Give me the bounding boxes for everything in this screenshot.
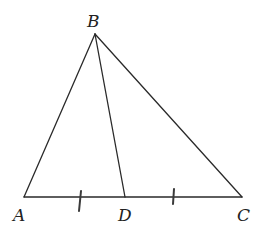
triangle-diagram: B A D C <box>0 0 256 236</box>
label-vertex-c: C <box>237 205 250 225</box>
segment-bc <box>95 34 242 197</box>
label-vertex-a: A <box>11 205 25 225</box>
tick-mark-dc <box>173 189 174 204</box>
tick-mark-ad <box>79 191 81 211</box>
label-vertex-b: B <box>86 11 100 31</box>
segment-ab <box>24 34 95 197</box>
label-point-d: D <box>117 205 132 225</box>
segment-bd-median <box>95 34 125 197</box>
